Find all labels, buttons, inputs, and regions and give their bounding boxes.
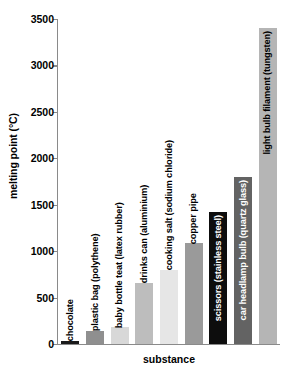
y-tick-label: 0 [48, 339, 54, 350]
bar[interactable]: plastic bag (polythene) [86, 331, 104, 344]
bar-slot: baby bottle teat (latex rubber) [107, 19, 132, 344]
y-tick-label: 1000 [31, 246, 54, 257]
y-tick-label: 2500 [31, 107, 54, 118]
bar-label: chocolate [66, 300, 75, 342]
bar-slot: copper pipe [181, 19, 206, 344]
y-tick-label: 500 [36, 292, 54, 303]
bar[interactable]: baby bottle teat (latex rubber) [111, 327, 129, 344]
bar-slot: plastic bag (polythene) [83, 19, 108, 344]
bar-label: drinks can (aluminium) [140, 185, 149, 283]
bar-slot: car headlamp bulb (quartz glass) [231, 19, 256, 344]
bar-label: light bulb filament (tungsten) [263, 31, 272, 155]
bar-label: scissors (stainless steel) [214, 215, 223, 321]
plot-area: 0500100015002000250030003500 chocolatepl… [58, 19, 280, 344]
bar[interactable]: scissors (stainless steel) [209, 212, 227, 344]
bar[interactable]: car headlamp bulb (quartz glass) [234, 177, 252, 344]
bar-label: cooking salt (sodium chloride) [164, 140, 173, 270]
bar[interactable]: copper pipe [185, 243, 203, 344]
bar-label: copper pipe [189, 193, 198, 244]
bar[interactable]: cooking salt (sodium chloride) [160, 270, 178, 344]
bar-label: car headlamp bulb (quartz glass) [239, 180, 248, 320]
bar-slot: drinks can (aluminium) [132, 19, 157, 344]
bar-chart: melting point (°C) 050010001500200025003… [0, 0, 283, 374]
bar[interactable]: light bulb filament (tungsten) [259, 28, 277, 344]
bar-label: baby bottle teat (latex rubber) [115, 202, 124, 328]
x-axis-title: substance [58, 353, 280, 365]
bar-slot: light bulb filament (tungsten) [255, 19, 280, 344]
y-tick-label: 2000 [31, 153, 54, 164]
bar-label: plastic bag (polythene) [90, 234, 99, 332]
y-axis-title: melting point (°C) [7, 96, 19, 216]
bar-slot: cooking salt (sodium chloride) [157, 19, 182, 344]
y-tick-label: 3500 [31, 14, 54, 25]
bar-slot: scissors (stainless steel) [206, 19, 231, 344]
y-tick-label: 3000 [31, 60, 54, 71]
bar[interactable]: chocolate [61, 341, 79, 344]
bar-slot: chocolate [58, 19, 83, 344]
y-tick-label: 1500 [31, 199, 54, 210]
bar[interactable]: drinks can (aluminium) [135, 283, 153, 344]
bar-series: chocolateplastic bag (polythene)baby bot… [58, 19, 280, 344]
